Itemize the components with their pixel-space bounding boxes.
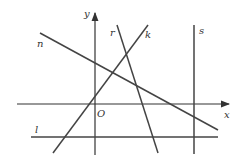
line-n <box>40 33 218 130</box>
line-r-label: r <box>110 27 116 38</box>
origin-label: O <box>97 108 105 119</box>
line-k <box>53 25 148 153</box>
diagram-canvas: y x O n r k s l <box>0 0 245 160</box>
line-r <box>117 25 158 153</box>
line-k-label: k <box>145 29 151 40</box>
coordinate-diagram: y x O n r k s l <box>0 0 245 160</box>
y-axis-label: y <box>83 8 90 19</box>
x-axis-label: x <box>224 109 230 120</box>
line-n-label: n <box>37 38 43 49</box>
line-l-label: l <box>35 124 38 135</box>
line-s-label: s <box>199 25 204 36</box>
